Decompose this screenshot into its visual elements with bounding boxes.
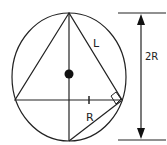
- label-diameter: 2R: [145, 51, 158, 62]
- arrow-down-icon: [137, 128, 145, 139]
- center-point: [65, 70, 74, 79]
- label-side-length: L: [93, 37, 100, 50]
- label-radius: R: [86, 111, 94, 124]
- chord-line: [69, 101, 121, 141]
- geometry-diagram: L R 2R: [0, 0, 167, 145]
- arrow-up-icon: [137, 14, 145, 25]
